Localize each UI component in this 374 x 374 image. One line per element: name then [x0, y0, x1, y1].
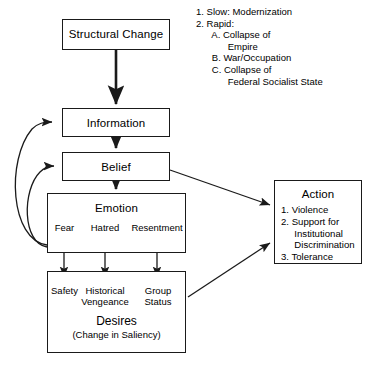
- desires-item-historical-vengeance: HistoricalVengeance: [78, 285, 132, 307]
- node-belief[interactable]: Belief: [62, 152, 170, 181]
- action-label: Action: [275, 188, 361, 200]
- emotion-item-hatred: Hatred: [82, 222, 128, 233]
- desires-subtitle: (Change in Saliency): [48, 329, 185, 340]
- arrow-desires-to-action: [188, 243, 270, 297]
- structural-change-label: Structural Change: [63, 28, 169, 40]
- emotion-item-resentment: Resentment: [124, 222, 190, 233]
- node-structural-change[interactable]: Structural Change: [62, 19, 170, 50]
- diagram-canvas: Structural Change 1. Slow: Modernization…: [0, 0, 374, 374]
- belief-label: Belief: [63, 161, 169, 173]
- information-label: Information: [63, 117, 169, 129]
- emotion-item-fear: Fear: [44, 222, 85, 233]
- causes-list: 1. Slow: Modernization 2. Rapid: A. Coll…: [196, 6, 323, 87]
- node-desires[interactable]: Desires (Change in Saliency): [47, 271, 186, 353]
- node-information[interactable]: Information: [62, 108, 170, 137]
- desires-item-group-status: GroupStatus: [136, 285, 180, 307]
- emotion-label: Emotion: [48, 202, 185, 214]
- action-list: 1. Violence 2. Support for Institutional…: [281, 204, 355, 263]
- desires-title: Desires: [48, 314, 185, 328]
